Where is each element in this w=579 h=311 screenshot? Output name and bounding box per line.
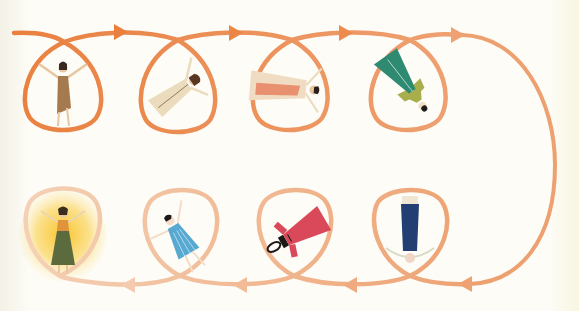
arrow-right-icon [229,25,243,41]
right-return-arc [462,35,555,284]
figure-7 [141,200,215,282]
arrow-left-icon [458,276,472,292]
top-loop-path [14,32,462,132]
illustration-canvas: Looping path of eight rotating figures [0,0,579,311]
arrow-left-icon [121,277,135,293]
arrow-right-icon [451,27,465,43]
arrow-right-icon [114,24,128,40]
loop-path-diagram [0,0,579,311]
arrow-left-icon [343,277,357,293]
figure-4 [374,47,438,120]
arrow-left-icon [233,277,247,293]
arrow-right-icon [339,25,353,41]
figure-1 [39,62,87,127]
figure-5 [386,196,434,263]
